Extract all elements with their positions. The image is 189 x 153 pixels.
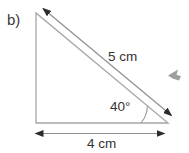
hypotenuse-length-label: 5 cm bbox=[108, 50, 137, 64]
triangle-outline bbox=[36, 13, 168, 123]
mouse-cursor-icon bbox=[168, 70, 181, 81]
figure-part-label: b) bbox=[7, 12, 20, 27]
base-length-label: 4 cm bbox=[87, 137, 116, 151]
diagram-canvas bbox=[0, 0, 189, 153]
triangle-diagram: b) 5 cm 40° 4 cm bbox=[0, 0, 189, 153]
angle-value-label: 40° bbox=[110, 100, 130, 114]
angle-arc bbox=[141, 106, 147, 123]
